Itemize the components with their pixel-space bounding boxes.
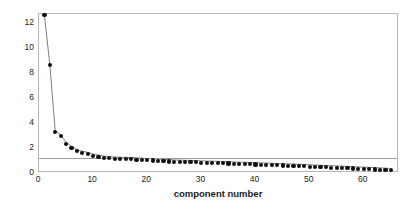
data-point [167,159,171,163]
eigenvalue-reference-line [39,158,397,159]
data-point [134,158,138,162]
data-point [96,155,100,159]
y-tick-label: 4 [18,117,34,127]
data-point [243,162,247,166]
data-point [378,168,382,172]
data-point [124,157,128,161]
x-tick-label: 0 [25,174,51,184]
data-point [216,161,220,165]
x-axis-tick-labels: 0102030405060 [38,174,398,186]
data-point [69,146,73,150]
y-axis-tick-labels: 024681012 [16,13,34,172]
data-point [351,166,355,170]
x-tick-label: 50 [296,174,322,184]
data-point [156,159,160,163]
data-point [253,162,257,166]
x-tick-label: 20 [133,174,159,184]
data-point [102,156,106,160]
data-point [373,167,377,171]
data-point [113,157,117,161]
x-tick-label: 60 [350,174,376,184]
x-tick-label: 10 [79,174,105,184]
x-axis-title: component number [38,188,398,199]
data-point [205,161,209,165]
plot-frame [38,13,398,172]
x-tick-label: 40 [242,174,268,184]
data-point [259,163,263,167]
data-point [188,160,192,164]
data-point [383,168,387,172]
data-point [226,161,230,165]
data-point [362,167,366,171]
data-point [64,142,68,146]
data-point [91,154,95,158]
data-point [86,152,90,156]
data-point [318,165,322,169]
data-point [286,164,290,168]
data-point [232,162,236,166]
data-point [48,63,52,67]
plot-area [39,14,397,171]
data-point [291,164,295,168]
scree-plot-figure: 024681012 Eigen values of components 010… [0,0,411,211]
data-point [140,158,144,162]
data-point [281,163,285,167]
data-point [308,165,312,169]
data-point [335,166,339,170]
data-point [389,168,393,172]
series-connector-line [39,14,397,171]
data-point [345,166,349,170]
y-tick-label: 10 [18,42,34,52]
y-tick-label: 12 [18,17,34,27]
data-point [42,13,46,17]
x-tick-label: 30 [187,174,213,184]
data-point [178,160,182,164]
data-point [161,159,165,163]
data-point [151,158,155,162]
y-tick-label: 8 [18,67,34,77]
y-tick-label: 6 [18,92,34,102]
y-tick-label: 2 [18,142,34,152]
